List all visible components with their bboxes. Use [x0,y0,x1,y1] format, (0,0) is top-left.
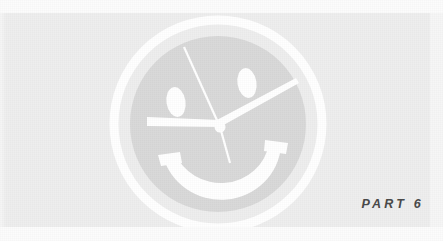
clock-pivot [215,122,226,133]
part-label: PART 6 [362,197,425,211]
part-divider-page: PART 6 [0,0,443,241]
